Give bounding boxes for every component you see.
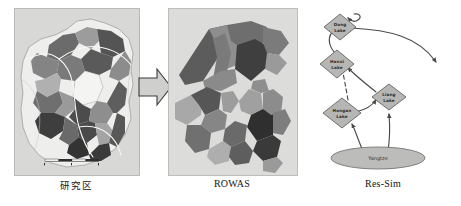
flow-arrow-shape <box>139 69 171 105</box>
node-hanxi-lake-label-line2: Lake <box>331 65 342 70</box>
res-sim-network-svg: Dong Lake Hanxi Lake Liang Lake <box>310 8 456 174</box>
panel-rowas-caption: ROWAS <box>168 178 296 189</box>
rowas-map-svg <box>169 9 297 175</box>
panel-study-area: 研究区 <box>14 8 138 204</box>
node-yangtze-label: Yangtze <box>367 155 387 162</box>
flow-arrow-right <box>138 66 172 108</box>
node-liang-lake-label-line2: Lake <box>383 98 394 103</box>
node-dong-lake-label-line1: Dong <box>334 22 347 27</box>
panel-rowas: ROWAS <box>168 8 296 204</box>
study-area-map-svg <box>15 9 139 175</box>
res-sim-diagram-body: Dong Lake Hanxi Lake Liang Lake <box>310 8 456 174</box>
study-area-map-body <box>14 8 140 176</box>
panel-res-sim: Dong Lake Hanxi Lake Liang Lake <box>310 8 456 204</box>
panel-study-area-caption: 研究区 <box>14 178 138 192</box>
node-hongan-lake-label-line1: Hongan <box>333 108 352 113</box>
node-yangtze[interactable]: Yangtze <box>331 147 425 169</box>
rowas-map-body <box>168 8 298 176</box>
node-liang-lake-label-line1: Liang <box>382 92 395 97</box>
figure-root: 研究区 <box>0 0 461 206</box>
node-dong-lake-label-line2: Lake <box>334 28 345 33</box>
node-hanxi-lake-label-line1: Hanxi <box>330 59 344 64</box>
panel-res-sim-caption: Res-Sim <box>310 178 456 189</box>
node-hongan-lake-label-line2: Lake <box>336 114 347 119</box>
